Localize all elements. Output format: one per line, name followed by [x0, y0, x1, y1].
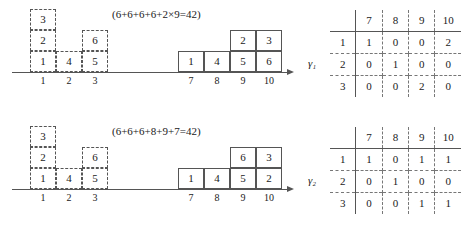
matrix-cell: 0 — [409, 54, 435, 76]
axis-tick-label: 3 — [82, 76, 108, 86]
dashed-cell: 2 — [30, 147, 56, 168]
matrix-cell: 0 — [382, 149, 408, 171]
matrix-column-header: 10 — [435, 127, 461, 149]
matrix-corner-cell — [330, 10, 356, 32]
matrix-cell: 1 — [356, 149, 382, 171]
matrix-header-row: 7 8 9 10 — [330, 127, 461, 149]
dashed-cell: 5 — [82, 168, 108, 189]
matrix-column-header: 8 — [382, 10, 408, 32]
matrix-row: 2 0 1 0 0 — [330, 171, 461, 193]
matrix-bottom: 7 8 9 10 1 1 0 1 1 2 0 1 0 0 3 0 — [330, 127, 461, 214]
axis-tick-label: 2 — [56, 193, 82, 203]
matrix-row: 3 0 0 1 1 — [330, 193, 461, 215]
matrix-top: 7 8 9 10 1 1 0 0 2 2 0 1 0 0 3 0 — [330, 10, 461, 97]
solid-cell: 6 — [256, 51, 282, 72]
axis-tick-label: 9 — [230, 76, 256, 86]
schematic-bottom: 3 2 1 4 6 5 1 4 6 5 3 2 1 2 3 7 8 9 10 — [0, 117, 310, 233]
solid-cell: 3 — [256, 30, 282, 51]
matrix-cell: 0 — [409, 32, 435, 54]
axis-tick-label: 7 — [178, 76, 204, 86]
matrix-column-header: 9 — [409, 127, 435, 149]
solid-cell: 4 — [204, 51, 230, 72]
axis-tick-label: 2 — [56, 76, 82, 86]
matrix-row: 2 0 1 0 0 — [330, 54, 461, 76]
axis-arrow-icon — [287, 186, 294, 192]
number-line-axis — [12, 72, 287, 73]
matrix-cell: 1 — [409, 193, 435, 215]
solid-cell: 3 — [256, 147, 282, 168]
matrix-cell: 0 — [382, 76, 408, 98]
dashed-cell: 5 — [82, 51, 108, 72]
solid-cell: 5 — [230, 168, 256, 189]
axis-tick-label: 3 — [82, 193, 108, 203]
matrix-cell: 0 — [435, 171, 461, 193]
matrix-row-header: 3 — [330, 76, 356, 98]
solid-cell: 2 — [256, 168, 282, 189]
matrix-cell: 1 — [382, 171, 408, 193]
solid-cell: 6 — [230, 147, 256, 168]
matrix-row: 1 1 0 1 1 — [330, 149, 461, 171]
matrix-column-header: 8 — [382, 127, 408, 149]
matrix-header-row: 7 8 9 10 — [330, 10, 461, 32]
solid-cell: 5 — [230, 51, 256, 72]
axis-tick-label: 8 — [204, 193, 230, 203]
matrix-cell: 2 — [435, 32, 461, 54]
matrix-cell: 0 — [356, 76, 382, 98]
matrix-column-header: 10 — [435, 10, 461, 32]
number-line-axis — [12, 189, 287, 190]
matrix-column-header: 7 — [356, 127, 382, 149]
matrix-cell: 0 — [356, 54, 382, 76]
matrix-corner-cell — [330, 127, 356, 149]
matrix-cell: 0 — [435, 76, 461, 98]
matrix-row: 3 0 0 2 0 — [330, 76, 461, 98]
matrix-cell: 0 — [356, 193, 382, 215]
matrix-row-header: 1 — [330, 32, 356, 54]
dashed-cell: 1 — [30, 51, 56, 72]
matrix-cell: 0 — [435, 54, 461, 76]
solid-cell: 4 — [204, 168, 230, 189]
matrix-cell: 0 — [382, 32, 408, 54]
matrix-table: 7 8 9 10 1 1 0 1 1 2 0 1 0 0 3 0 — [330, 127, 461, 214]
dashed-cell: 3 — [30, 9, 56, 30]
matrix-cell: 2 — [409, 76, 435, 98]
axis-tick-label: 1 — [30, 193, 56, 203]
dashed-cell: 3 — [30, 126, 56, 147]
matrix-column-header: 7 — [356, 10, 382, 32]
matrix-cell: 1 — [435, 149, 461, 171]
matrix-cell: 1 — [435, 193, 461, 215]
matrix-label-gamma1: γ₁ — [308, 58, 316, 69]
schematic-top: 3 2 1 4 6 5 1 4 2 5 3 6 1 2 3 7 8 9 10 — [0, 0, 310, 116]
matrix-table: 7 8 9 10 1 1 0 0 2 2 0 1 0 0 3 0 — [330, 10, 461, 97]
matrix-cell: 0 — [382, 193, 408, 215]
dashed-cell: 6 — [82, 147, 108, 168]
figure-panel-top: (6+6+6+6+2×9=42) 3 2 1 4 6 5 1 4 2 5 3 6… — [0, 0, 461, 116]
axis-tick-label: 10 — [256, 76, 282, 86]
dashed-cell: 6 — [82, 30, 108, 51]
matrix-cell: 1 — [382, 54, 408, 76]
solid-cell: 1 — [178, 168, 204, 189]
axis-arrow-icon — [287, 69, 294, 75]
matrix-row-header: 1 — [330, 149, 356, 171]
solid-cell: 1 — [178, 51, 204, 72]
axis-tick-label: 7 — [178, 193, 204, 203]
figure-panel-bottom: (6+6+6+8+9+7=42) 3 2 1 4 6 5 1 4 6 5 3 2… — [0, 117, 461, 233]
axis-tick-label: 1 — [30, 76, 56, 86]
matrix-cell: 1 — [356, 32, 382, 54]
matrix-row-header: 2 — [330, 54, 356, 76]
matrix-cell: 0 — [409, 171, 435, 193]
axis-tick-label: 8 — [204, 76, 230, 86]
axis-tick-label: 9 — [230, 193, 256, 203]
matrix-column-header: 9 — [409, 10, 435, 32]
matrix-label-gamma2: γ₂ — [308, 175, 316, 186]
axis-tick-label: 10 — [256, 193, 282, 203]
dashed-cell: 4 — [56, 168, 82, 189]
dashed-cell: 1 — [30, 168, 56, 189]
dashed-cell: 2 — [30, 30, 56, 51]
matrix-row: 1 1 0 0 2 — [330, 32, 461, 54]
matrix-cell: 0 — [356, 171, 382, 193]
matrix-row-header: 2 — [330, 171, 356, 193]
solid-cell: 2 — [230, 30, 256, 51]
dashed-cell: 4 — [56, 51, 82, 72]
matrix-row-header: 3 — [330, 193, 356, 215]
matrix-cell: 1 — [409, 149, 435, 171]
